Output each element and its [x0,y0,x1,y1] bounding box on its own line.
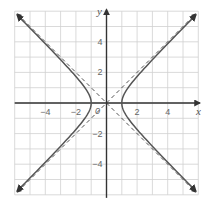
origin-label: 0 [95,106,100,116]
x-axis-label: x [195,105,201,117]
x-tick-label: 2 [135,107,140,117]
x-tick-label: −4 [40,107,50,117]
y-tick-label: −2 [92,129,102,139]
y-tick-label: 4 [97,37,102,47]
x-tick-label: 4 [165,107,170,117]
y-tick-label: 2 [97,67,102,77]
hyperbola-chart: −4−22442−2−4 x y 0 [0,0,213,205]
x-tick-label: −2 [71,107,81,117]
y-tick-label: −4 [92,159,102,169]
y-axis-label: y [96,5,102,17]
